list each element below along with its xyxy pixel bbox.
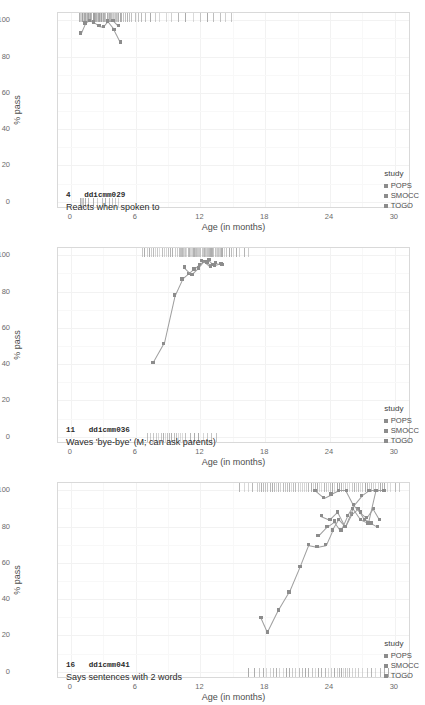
gridline-horizontal: [58, 527, 409, 528]
data-point: [329, 492, 332, 495]
gridline-vertical-minor: [362, 13, 363, 207]
legend-title-1: study: [384, 404, 419, 415]
gridline-horizontal-minor: [58, 38, 409, 39]
data-point: [205, 261, 208, 264]
legend-0: study POPSSMOCCTOGO: [384, 169, 419, 211]
gridline-vertical: [200, 13, 201, 207]
gridline-horizontal-minor: [58, 111, 409, 112]
data-point: [343, 525, 346, 528]
data-point: [378, 518, 381, 521]
legend-marker-icon: [384, 439, 387, 442]
data-point: [337, 489, 340, 492]
panel-2: % pass Age (in months) 16 ddicmm041 Says…: [0, 470, 425, 705]
gridline-vertical: [330, 13, 331, 207]
panel-1: % pass Age (in months) 11 ddicmm036 Wave…: [0, 235, 425, 470]
panel-annotation-2: 16 ddicmm041 Says sentences with 2 words: [66, 661, 182, 683]
x-tick-label: 30: [390, 447, 398, 456]
legend-item-label: POPS: [391, 181, 412, 191]
panel-0: % pass Age (in months) 4 ddicmm029 React…: [0, 0, 425, 235]
panel-code-1: 11 ddicmm036: [66, 426, 216, 435]
x-tick-label: 18: [260, 212, 268, 221]
y-axis-title-2: % pass: [12, 565, 22, 595]
data-point: [151, 361, 154, 364]
y-tick-label: 100: [0, 485, 10, 494]
legend-item: POPS: [384, 416, 419, 426]
data-point: [180, 277, 183, 280]
gridline-horizontal-minor: [58, 581, 409, 582]
gridline-horizontal-minor: [58, 310, 409, 311]
data-point: [97, 24, 100, 27]
y-tick-label: 40: [0, 124, 10, 133]
legend-marker-icon: [384, 184, 387, 187]
panel-annotation-0: 4 ddicmm029 Reacts when spoken to: [66, 191, 160, 213]
gridline-vertical-minor: [168, 483, 169, 677]
x-tick-label: 0: [68, 212, 72, 221]
y-axis-title-0: % pass: [12, 95, 22, 125]
data-point: [307, 543, 310, 546]
gridline-vertical: [71, 13, 72, 207]
y-tick-label: 0: [0, 431, 10, 440]
data-point: [374, 489, 377, 492]
data-point: [331, 528, 334, 531]
y-tick-label: 80: [0, 521, 10, 530]
series-line-segment: [278, 592, 290, 611]
legend-marker-icon: [384, 419, 387, 422]
gridline-vertical-minor: [362, 483, 363, 677]
legend-1: study POPSSMOCCTOGO: [384, 404, 419, 446]
y-tick-label: 0: [0, 196, 10, 205]
gridline-horizontal: [58, 292, 409, 293]
y-tick-label: 0: [0, 666, 10, 675]
x-tick-label: 0: [68, 682, 72, 691]
legend-item: SMOCC: [384, 661, 419, 671]
gridline-vertical: [136, 483, 137, 677]
legend-item: TOGO: [384, 436, 419, 446]
gridline-vertical-minor: [168, 13, 169, 207]
data-point: [259, 616, 262, 619]
data-point: [211, 263, 214, 266]
gridline-vertical-minor: [362, 248, 363, 442]
y-tick-label: 60: [0, 87, 10, 96]
data-point: [298, 565, 301, 568]
legend-item: SMOCC: [384, 426, 419, 436]
data-point: [320, 514, 323, 517]
data-point: [333, 519, 336, 522]
y-tick-label: 20: [0, 395, 10, 404]
gridline-vertical-minor: [298, 483, 299, 677]
x-axis-title-2: Age (in months): [57, 692, 410, 702]
data-point: [119, 40, 122, 43]
legend-title-0: study: [384, 169, 419, 180]
data-point: [173, 293, 176, 296]
data-point: [325, 525, 328, 528]
data-point: [367, 489, 370, 492]
series-line-segment: [267, 610, 279, 632]
x-tick-label: 24: [325, 447, 333, 456]
data-point: [79, 31, 82, 34]
gridline-horizontal-minor: [58, 273, 409, 274]
legend-item-label: SMOCC: [391, 191, 419, 201]
gridline-horizontal: [58, 364, 409, 365]
gridline-vertical-minor: [298, 248, 299, 442]
y-tick-label: 20: [0, 630, 10, 639]
plot-area-0: [57, 12, 410, 208]
data-point: [360, 494, 363, 497]
data-point: [102, 25, 105, 28]
gridline-vertical: [330, 483, 331, 677]
gridline-horizontal-minor: [58, 346, 409, 347]
data-point: [183, 265, 186, 268]
x-tick-label: 18: [260, 682, 268, 691]
gridline-vertical-minor: [103, 483, 104, 677]
gridline-horizontal: [58, 328, 409, 329]
data-point: [92, 20, 95, 23]
data-point: [366, 521, 369, 524]
legend-item-label: TOGO: [391, 436, 413, 446]
data-point: [322, 496, 325, 499]
legend-2: study POPSSMOCCTOGO: [384, 639, 419, 681]
legend-item-label: SMOCC: [391, 661, 419, 671]
milestone-facet-figure: % pass Age (in months) 4 ddicmm029 React…: [0, 0, 425, 705]
x-tick-label: 0: [68, 447, 72, 456]
gridline-vertical-minor: [298, 13, 299, 207]
legend-item-label: TOGO: [391, 201, 413, 211]
data-point: [277, 608, 280, 611]
data-point: [111, 19, 114, 22]
gridline-vertical: [136, 13, 137, 207]
